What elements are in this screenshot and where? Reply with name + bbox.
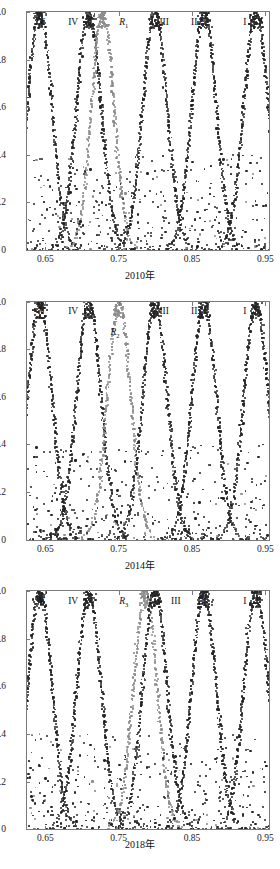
plot-area-2010: VIVR1IIIIII <box>26 11 270 251</box>
x-tick-mark-top <box>45 12 46 16</box>
panel-2018: VIVR3IIIIII 00.20.40.60.81.0 0.650.750.8… <box>0 579 280 869</box>
y-tick-mark <box>26 397 30 398</box>
peak-label-II: II <box>191 18 197 28</box>
x-tick-label: 0.65 <box>37 544 54 554</box>
x-tick-label: 0.85 <box>184 254 201 264</box>
y-tick-mark <box>26 686 30 687</box>
plot-area-2018: VIVR3IIIIII <box>26 590 270 830</box>
x-tick-label: 0.85 <box>184 544 201 554</box>
peak-label-R3: R3 <box>119 597 128 608</box>
x-tick-mark <box>119 247 120 251</box>
y-tick-label: 0.4 <box>0 729 6 739</box>
y-tick-label: 0.2 <box>0 197 6 207</box>
x-tick-mark <box>192 537 193 541</box>
y-tick-label: 0.8 <box>0 55 6 65</box>
y-tick-mark <box>26 444 30 445</box>
y-tick-label: 0.6 <box>0 681 6 691</box>
y-tick-mark <box>26 639 30 640</box>
y-tick-label: 1.0 <box>0 7 6 17</box>
y-tick-mark <box>26 12 30 13</box>
data-point <box>269 120 270 122</box>
panel-2014: VIVR2IIIIII 00.20.40.60.81.0 0.650.750.8… <box>0 290 280 580</box>
x-tick-mark-top <box>265 302 266 306</box>
x-tick-mark-top <box>45 302 46 306</box>
x-tick-label: 0.75 <box>110 544 127 554</box>
x-axis-label-2018: 2018年 <box>0 836 280 851</box>
y-tick-mark <box>26 302 30 303</box>
x-tick-mark <box>192 247 193 251</box>
x-tick-mark <box>119 826 120 830</box>
x-tick-mark <box>265 826 266 830</box>
peak-label-V: V <box>38 307 45 317</box>
y-tick-mark <box>26 349 30 350</box>
x-tick-mark-top <box>119 591 120 595</box>
x-tick-mark-top <box>119 12 120 16</box>
x-axis-label-2014: 2014年 <box>0 557 280 572</box>
y-tick-label: 0.4 <box>0 150 6 160</box>
y-tick-mark <box>26 250 30 251</box>
x-tick-mark <box>265 537 266 541</box>
y-tick-label: 0 <box>0 824 6 834</box>
y-tick-mark <box>26 107 30 108</box>
plot-area-2014: VIVR2IIIIII <box>26 301 270 541</box>
y-tick-mark <box>26 829 30 830</box>
y-tick-label: 0.6 <box>0 392 6 402</box>
y-tick-mark <box>26 60 30 61</box>
figure-three-panel-scatter: VIVR1IIIIII 00.20.40.60.81.0 0.650.750.8… <box>0 0 280 869</box>
data-point <box>269 702 270 704</box>
y-tick-mark <box>26 591 30 592</box>
x-tick-mark-top <box>119 302 120 306</box>
y-tick-mark <box>26 155 30 156</box>
y-tick-label: 0.4 <box>0 439 6 449</box>
peak-label-IV: IV <box>68 307 78 317</box>
peak-label-IV: IV <box>68 18 78 28</box>
peak-label-R1: R1 <box>119 18 128 29</box>
x-tick-mark <box>119 537 120 541</box>
y-tick-mark <box>26 782 30 783</box>
peak-label-R2: R2 <box>110 328 119 339</box>
y-tick-label: 0.2 <box>0 777 6 787</box>
x-tick-mark-top <box>265 12 266 16</box>
peak-label-I: I <box>243 597 246 607</box>
peak-label-V: V <box>38 597 45 607</box>
y-tick-mark <box>26 492 30 493</box>
x-tick-label: 0.95 <box>257 254 274 264</box>
x-tick-mark <box>265 247 266 251</box>
panel-2010: VIVR1IIIIII 00.20.40.60.81.0 0.650.750.8… <box>0 0 280 290</box>
y-tick-mark <box>26 202 30 203</box>
annotation-layer-2018: VIVR3IIIIII <box>27 591 269 829</box>
y-tick-mark <box>26 734 30 735</box>
x-tick-mark-top <box>192 591 193 595</box>
y-tick-label: 0.8 <box>0 634 6 644</box>
y-tick-mark <box>26 540 30 541</box>
peak-label-III: III <box>159 307 169 317</box>
x-tick-mark-top <box>192 12 193 16</box>
peak-label-I: I <box>243 307 246 317</box>
annotation-layer-2014: VIVR2IIIIII <box>27 302 269 540</box>
peak-label-III: III <box>159 18 169 28</box>
x-tick-label: 0.95 <box>257 544 274 554</box>
y-tick-label: 1.0 <box>0 586 6 596</box>
x-tick-mark <box>45 247 46 251</box>
y-tick-label: 0.8 <box>0 344 6 354</box>
peak-label-I: I <box>243 18 246 28</box>
x-axis-label-2010: 2010年 <box>0 267 280 282</box>
peak-label-II: II <box>198 597 204 607</box>
peak-label-III: III <box>171 597 181 607</box>
x-tick-mark <box>45 537 46 541</box>
y-tick-label: 0.2 <box>0 487 6 497</box>
y-tick-label: 0 <box>0 535 6 545</box>
x-tick-mark <box>45 826 46 830</box>
peak-label-II: II <box>191 307 197 317</box>
x-tick-label: 0.65 <box>37 254 54 264</box>
y-tick-label: 1.0 <box>0 297 6 307</box>
x-tick-mark-top <box>45 591 46 595</box>
x-tick-mark-top <box>265 591 266 595</box>
peak-label-IV: IV <box>68 597 78 607</box>
data-point <box>269 414 270 416</box>
data-point <box>269 699 270 701</box>
y-tick-label: 0 <box>0 245 6 255</box>
x-tick-label: 0.75 <box>110 254 127 264</box>
x-tick-mark <box>192 826 193 830</box>
annotation-layer-2010: VIVR1IIIIII <box>27 12 269 250</box>
